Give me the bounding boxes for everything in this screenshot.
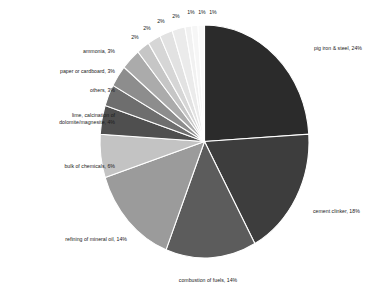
- pie-slices-group: [100, 25, 309, 258]
- slice-label-pct-2-a: 2%: [128, 34, 142, 41]
- slice-label-lime-line-2: dolomite/magnesite, 4%: [59, 119, 115, 125]
- slice-label-pct-2-d: 2%: [169, 13, 183, 20]
- slice-label-pig-iron-steel: pig iron & steel, 24%: [314, 45, 384, 52]
- slice-label-ammonia: ammonia, 3%: [24, 48, 115, 55]
- slice-label-lime-line-1: lime, calcination of: [72, 112, 115, 118]
- pie-slice-pig-iron-steel[interactable]: [205, 25, 309, 142]
- slice-label-pct-2-c: 2%: [154, 18, 168, 25]
- slice-label-others: others, 3%: [20, 87, 115, 94]
- pie-chart-figure: pig iron & steel, 24% cement clinker, 18…: [0, 0, 384, 296]
- slice-label-refining-of-mineral-oil: refining of mineral oil, 14%: [12, 236, 127, 243]
- slice-label-paper-or-cardboard: paper or cardboard, 3%: [12, 68, 115, 75]
- slice-label-pct-1-c: 1%: [207, 9, 219, 16]
- slice-label-cement-clinker: cement clinker, 18%: [313, 208, 383, 215]
- slice-label-combustion-of-fuels: combustion of fuels, 14%: [148, 277, 268, 284]
- slice-label-pct-2-b: 2%: [140, 25, 154, 32]
- slice-label-bulk-of-chemicals: bulk of chemicals, 6%: [12, 163, 115, 170]
- slice-label-lime-calcination: lime, calcination ofdolomite/magnesite, …: [10, 112, 115, 125]
